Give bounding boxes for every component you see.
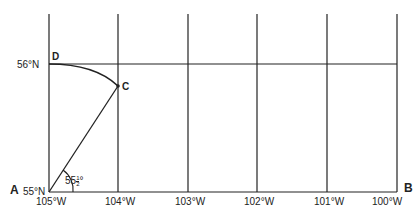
angle-label: 5512°	[65, 176, 83, 187]
point-d-label: D	[52, 52, 59, 62]
point-a-label: A	[10, 185, 19, 195]
lon-100w-label: 100°W	[372, 197, 402, 207]
line-ac	[49, 86, 118, 192]
map-diagram: D C A B 56°N 55°N 5512° 105°W 104°W 103°…	[0, 0, 420, 220]
point-c-label: C	[122, 82, 129, 92]
lon-102w-label: 102°W	[244, 197, 274, 207]
meridian-lines	[49, 14, 397, 192]
lon-105w-label: 105°W	[36, 197, 66, 207]
point-b-label: B	[404, 183, 413, 193]
lat-56n-label: 56°N	[17, 60, 39, 70]
arc-dc	[49, 64, 118, 86]
lon-104w-label: 104°W	[105, 197, 135, 207]
lon-103w-label: 103°W	[175, 197, 205, 207]
grid-and-path	[0, 0, 420, 220]
lon-101w-label: 101°W	[314, 197, 344, 207]
